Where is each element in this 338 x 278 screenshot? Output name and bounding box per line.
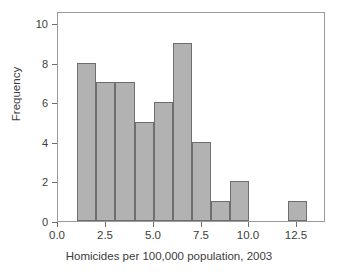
histogram-bar	[288, 201, 307, 221]
histogram-bar	[115, 82, 134, 221]
histogram-bar	[77, 63, 96, 221]
x-tick-label: 12.5	[276, 229, 316, 242]
x-tick-mark	[57, 222, 58, 227]
plot-area	[58, 13, 324, 221]
y-tick-label: 0	[20, 217, 48, 227]
x-tick-label: 0.0	[37, 229, 77, 242]
histogram-bar	[154, 102, 173, 221]
histogram-bar	[230, 181, 249, 221]
x-tick-mark	[153, 222, 154, 227]
plot-frame	[57, 12, 325, 222]
histogram-bar	[173, 43, 192, 221]
histogram-bar	[211, 201, 230, 221]
y-tick-label: 2	[20, 177, 48, 187]
x-tick-mark	[105, 222, 106, 227]
x-tick-mark	[248, 222, 249, 227]
x-tick-label: 7.5	[181, 229, 221, 242]
histogram-bar	[192, 142, 211, 221]
histogram-bar	[135, 122, 154, 221]
y-tick-label: 6	[20, 98, 48, 108]
y-tick-label: 4	[20, 138, 48, 148]
x-tick-label: 5.0	[133, 229, 173, 242]
y-tick-label: 10	[20, 19, 48, 29]
histogram-bar	[96, 82, 115, 221]
x-axis-label: Homicides per 100,000 population, 2003	[0, 250, 338, 262]
x-tick-mark	[201, 222, 202, 227]
y-axis-label: Frequency	[10, 34, 22, 154]
histogram-figure: Frequency 0246810 0.02.55.07.510.012.5 H…	[0, 0, 338, 278]
x-tick-mark	[296, 222, 297, 227]
y-tick-label: 8	[20, 59, 48, 69]
x-tick-label: 10.0	[228, 229, 268, 242]
x-tick-label: 2.5	[85, 229, 125, 242]
